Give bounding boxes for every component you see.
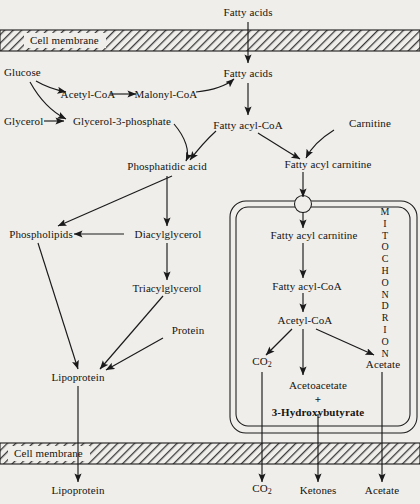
mito-letter-c: C bbox=[379, 253, 391, 265]
plus-sign: + bbox=[315, 393, 321, 405]
mito-letter-h: H bbox=[379, 265, 391, 277]
node-glycerol: Glycerol bbox=[4, 115, 43, 127]
node-protein: Protein bbox=[172, 324, 204, 336]
diagram-canvas bbox=[0, 0, 420, 504]
arrow-carnitine-to-acylcarnitine bbox=[306, 130, 334, 158]
node-acetoacetate: Acetoacetate bbox=[289, 379, 347, 391]
node-co2-mito: CO2 bbox=[252, 355, 272, 371]
node-phosphatidic-acid: Phosphatidic acid bbox=[127, 160, 207, 172]
mito-letter-n2: N bbox=[379, 348, 391, 360]
mito-letter-m: M bbox=[379, 206, 391, 218]
cell-membrane-bottom-label: Cell membrane bbox=[14, 447, 83, 459]
node-triacylglycerol: Triacylglycerol bbox=[133, 282, 202, 294]
pathway-diagram: Fatty acids Cell membrane Fatty acids Gl… bbox=[0, 0, 420, 504]
mito-letter-d: D bbox=[379, 300, 391, 312]
node-ketones-blood: Ketones bbox=[300, 484, 337, 496]
mito-letter-t: T bbox=[379, 230, 391, 242]
mitochondrion-label: MITOCHONDRION bbox=[379, 206, 391, 359]
node-fatty-acids-cytosol: Fatty acids bbox=[223, 67, 272, 79]
node-fatty-acyl-carnitine-cytosol: Fatty acyl carnitine bbox=[285, 158, 372, 170]
node-glucose: Glucose bbox=[4, 66, 41, 78]
arrow-malonylcoa-to-fattyacids bbox=[196, 79, 234, 92]
node-fatty-acyl-carnitine-mito: Fatty acyl carnitine bbox=[271, 229, 358, 241]
arrow-triacylglycerol-to-lipoprotein bbox=[100, 296, 163, 369]
arrow-acetylcoa-to-acetate bbox=[316, 329, 374, 355]
arrow-g3p-to-phosphatidicacid bbox=[174, 124, 188, 161]
mito-letter-i2: I bbox=[379, 324, 391, 336]
arrow-acylcoa-to-acylcarnitine bbox=[258, 133, 300, 159]
node-fatty-acyl-coa-cytosol: Fatty acyl-CoA bbox=[213, 119, 283, 131]
node-acetate-blood: Acetate bbox=[365, 484, 399, 496]
node-fatty-acyl-coa-mito: Fatty acyl-CoA bbox=[272, 280, 342, 292]
arrow-phosphatidicacid-to-phospholipids bbox=[58, 176, 172, 226]
co2-text: CO bbox=[252, 355, 267, 367]
node-acetate-mito: Acetate bbox=[366, 358, 400, 370]
cell-membrane-top-label: Cell membrane bbox=[30, 34, 99, 46]
mito-letter-i: I bbox=[379, 218, 391, 230]
mito-letter-n1: N bbox=[379, 289, 391, 301]
mito-letter-o2: O bbox=[379, 277, 391, 289]
node-malonyl-coa: Malonyl-CoA bbox=[135, 88, 198, 100]
node-acetyl-coa-cytosol: Acetyl-CoA bbox=[61, 88, 116, 100]
mito-letter-o1: O bbox=[379, 241, 391, 253]
mito-letter-r: R bbox=[379, 312, 391, 324]
arrow-acylcoa-to-phosphatidicacid bbox=[190, 131, 216, 160]
node-fatty-acids-extracellular: Fatty acids bbox=[223, 6, 272, 18]
node-acetyl-coa-mito: Acetyl-CoA bbox=[278, 314, 333, 326]
node-carnitine: Carnitine bbox=[349, 117, 391, 129]
node-phospholipids: Phospholipids bbox=[9, 228, 73, 240]
co2-subscript: 2 bbox=[268, 360, 272, 369]
arrow-protein-to-lipoprotein bbox=[106, 338, 163, 370]
node-co2-blood: CO2 bbox=[252, 482, 272, 498]
mito-letter-o3: O bbox=[379, 336, 391, 348]
co2-blood-subscript: 2 bbox=[268, 487, 272, 496]
node-3-hydroxybutyrate: 3-Hydroxybutyrate bbox=[272, 406, 365, 418]
node-lipoprotein-blood: Lipoprotein bbox=[51, 484, 104, 496]
co2-blood-text: CO bbox=[252, 482, 267, 494]
node-lipoprotein-cell: Lipoprotein bbox=[51, 371, 104, 383]
node-diacylglycerol: Diacylglycerol bbox=[135, 228, 202, 240]
node-glycerol-3-phosphate: Glycerol-3-phosphate bbox=[73, 115, 171, 127]
arrow-phospholipids-to-lipoprotein bbox=[38, 243, 78, 369]
arrow-acetylcoa-to-co2 bbox=[266, 329, 292, 355]
